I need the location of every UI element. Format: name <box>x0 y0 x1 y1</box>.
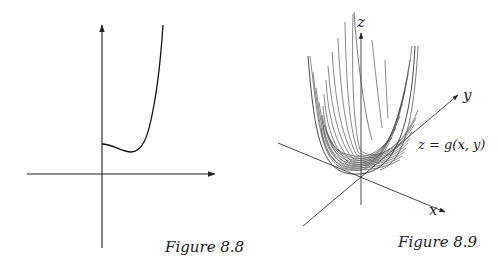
surface-equation-label: z = g(x, y) <box>418 137 485 152</box>
z-axis-label: z <box>357 13 365 31</box>
figure-8-8-caption: Figure 8.8 <box>165 238 244 256</box>
figure-8-9-caption: Figure 8.9 <box>398 233 477 251</box>
figure-canvas <box>0 0 498 267</box>
x-axis-label: x <box>429 201 437 219</box>
surface-curves <box>308 12 418 174</box>
x-axis-3d <box>278 143 445 212</box>
y-axis-label: y <box>463 86 471 104</box>
figure-8-9-plot <box>278 12 458 226</box>
function-curve <box>102 25 163 152</box>
figure-8-8-plot <box>27 25 215 248</box>
